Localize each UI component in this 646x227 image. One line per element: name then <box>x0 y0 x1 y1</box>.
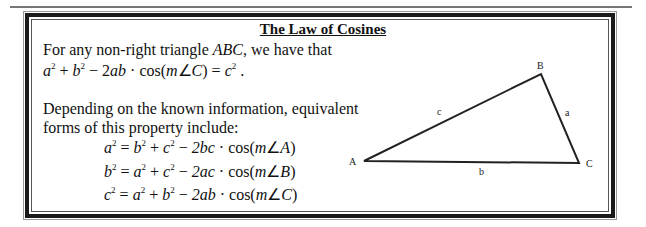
side-label-a: a <box>565 107 570 118</box>
side-label-b: b <box>479 166 484 177</box>
side-label-c: c <box>437 106 442 117</box>
triangle-diagram: A B C c a b <box>0 0 646 227</box>
vertex-label-b: B <box>537 60 544 71</box>
vertex-label-a: A <box>349 156 357 167</box>
triangle-shape <box>364 74 579 163</box>
vertex-label-c: C <box>586 158 593 169</box>
